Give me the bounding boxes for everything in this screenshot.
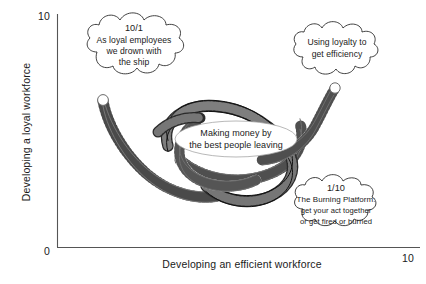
- cloud-bottom-right-line-2: get your act together: [301, 206, 372, 215]
- cloud-bottom-right-line-1: The Burning Platform:: [297, 195, 376, 204]
- cloud-top-left: 10/1 As loyal employees we drown with th…: [87, 13, 183, 74]
- cloud-bottom-right-ratio: 1/10: [327, 183, 345, 193]
- cloud-top-right-line-2: get efficiency: [312, 49, 363, 59]
- cloud-top-right-shape: [294, 22, 378, 74]
- center-callout-line-2: the best people leaving: [189, 140, 283, 150]
- x-axis-title: Developing an efficient workforce: [162, 258, 321, 270]
- cloud-bottom-right-line-3: or get fired or burned: [300, 217, 372, 226]
- cloud-top-left-line-3: the ship: [119, 57, 150, 67]
- loyalty-efficiency-diagram: Making money by the best people leaving …: [0, 0, 426, 284]
- center-callout-line-1: Making money by: [200, 128, 272, 138]
- center-callout: Making money by the best people leaving: [175, 121, 297, 157]
- cloud-top-right-line-1: Using loyalty to: [307, 37, 366, 47]
- cloud-bottom-right: 1/10 The Burning Platform: get your act …: [295, 175, 376, 226]
- origin-tick-label: 0: [44, 245, 50, 257]
- y-axis-max-tick-label: 10: [38, 10, 50, 22]
- cloud-top-left-line-2: we drown with: [105, 46, 161, 56]
- cloud-top-left-ratio: 10/1: [125, 23, 143, 33]
- cloud-top-left-line-1: As loyal employees: [97, 35, 172, 45]
- cloud-top-right: Using loyalty to get efficiency: [294, 22, 378, 74]
- diagram-canvas: Making money by the best people leaving …: [0, 0, 426, 284]
- center-callout-shape: [175, 121, 297, 157]
- y-axis-title: Developing a loyal workforce: [20, 63, 32, 201]
- x-axis-max-tick-label: 10: [402, 252, 414, 264]
